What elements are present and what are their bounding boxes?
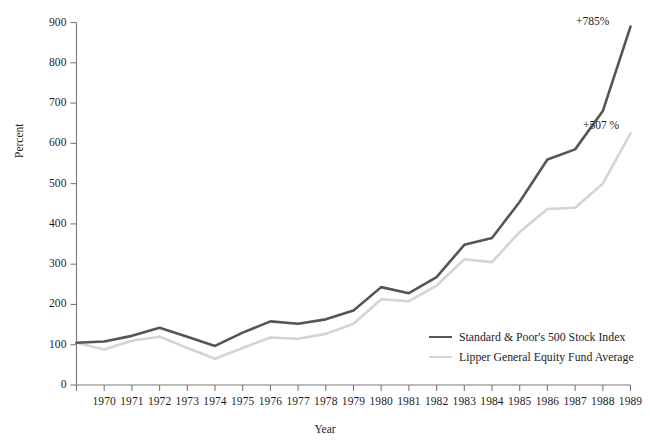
annotation-lipper: +507 % (583, 120, 619, 132)
y-tick-label: 300 (33, 258, 67, 270)
y-tick-label: 900 (33, 17, 67, 29)
x-tick-label: 1989 (611, 396, 650, 408)
y-tick-label: 600 (33, 137, 67, 149)
y-axis-title: Percent (14, 88, 26, 158)
annotation-sp500: +785% (576, 16, 609, 28)
series-lines (77, 27, 631, 359)
plot-area (0, 0, 650, 446)
y-tick-label: 0 (33, 379, 67, 391)
legend-item-lipper: Lipper General Equity Fund Average (429, 351, 634, 363)
y-tick-label: 100 (33, 339, 67, 351)
x-axis-title: Year (0, 424, 650, 436)
y-tick-label: 200 (33, 298, 67, 310)
legend-label-sp500: Standard & Poor's 500 Stock Index (459, 331, 625, 343)
y-tick-label: 400 (33, 218, 67, 230)
y-tick-label: 700 (33, 97, 67, 109)
line-chart: 0100200300400500600700800900 19701971197… (0, 0, 650, 446)
legend-label-lipper: Lipper General Equity Fund Average (459, 351, 634, 363)
y-tick-label: 800 (33, 57, 67, 69)
legend-swatch-sp500 (429, 336, 452, 338)
y-tick-label: 500 (33, 178, 67, 190)
legend-swatch-lipper (429, 356, 452, 358)
legend-item-sp500: Standard & Poor's 500 Stock Index (429, 331, 625, 343)
